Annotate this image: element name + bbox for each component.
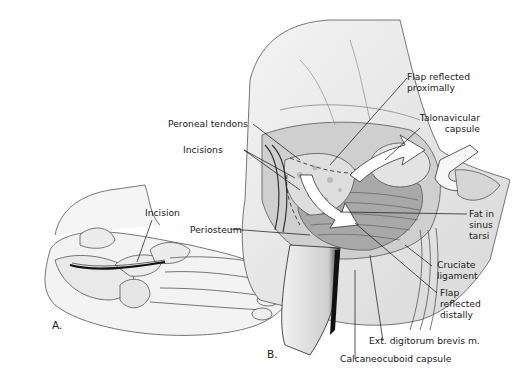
label-calcaneocuboid-capsule: Calcaneocuboid capsule bbox=[340, 353, 451, 364]
label-flap-reflected-proximally: Flap reflected proximally bbox=[407, 71, 470, 93]
label-incision: Incision bbox=[145, 207, 180, 218]
label-line: reflected bbox=[440, 298, 481, 309]
label-line: distally bbox=[440, 309, 481, 320]
label-line: Flap bbox=[440, 287, 481, 298]
label-line: sinus bbox=[469, 219, 494, 230]
label-fat-in-sinus-tarsi: Fat in sinus tarsi bbox=[469, 208, 494, 241]
label-cruciate-ligament: Cruciate ligament bbox=[437, 259, 478, 281]
label-line: proximally bbox=[407, 82, 470, 93]
label-periosteum: Periosteum bbox=[190, 224, 242, 235]
label-line: Flap reflected bbox=[407, 71, 470, 82]
label-line: ligament bbox=[437, 270, 478, 281]
label-peroneal-tendons: Peroneal tendons bbox=[168, 118, 248, 129]
label-flap-reflected-distally: Flap reflected distally bbox=[440, 287, 481, 320]
label-line: Talonavicular bbox=[410, 112, 480, 123]
label-line: Cruciate bbox=[437, 259, 478, 270]
anatomical-illustration bbox=[0, 0, 522, 383]
panel-label-a: A. bbox=[52, 319, 62, 331]
label-line: capsule bbox=[410, 123, 480, 134]
label-incisions: Incisions bbox=[183, 144, 223, 155]
label-ext-digitorum-brevis: Ext. digitorum brevis m. bbox=[369, 335, 480, 346]
label-line: tarsi bbox=[469, 230, 494, 241]
panel-label-b: B. bbox=[267, 348, 278, 360]
label-line: Fat in bbox=[469, 208, 494, 219]
label-talonavicular-capsule: Talonavicular capsule bbox=[410, 112, 480, 134]
